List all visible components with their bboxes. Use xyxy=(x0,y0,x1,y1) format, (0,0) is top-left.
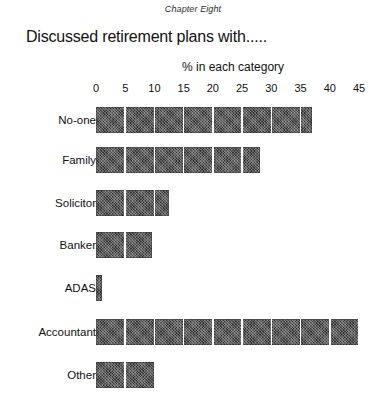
bar xyxy=(96,319,359,345)
bar-rows: No-oneFamilySolicitorBankerADASAccountan… xyxy=(0,0,386,413)
bar xyxy=(96,107,312,133)
bar-row: Solicitor xyxy=(0,190,386,216)
bar-row: ADAS xyxy=(0,275,386,301)
bar-row: No-one xyxy=(0,107,386,133)
bar-row: Banker xyxy=(0,232,386,258)
bar-chart-plot: 051015202530354045 No-oneFamilySolicitor… xyxy=(0,0,386,413)
category-label: ADAS xyxy=(65,282,96,294)
bar-row: Other xyxy=(0,362,386,388)
category-label: Family xyxy=(62,154,96,166)
category-label: Other xyxy=(67,369,96,381)
bar xyxy=(96,147,260,173)
category-label: Accountant xyxy=(38,326,96,338)
bar xyxy=(96,275,102,301)
category-label: Banker xyxy=(60,239,96,251)
category-label: No-one xyxy=(58,114,96,126)
bar xyxy=(96,362,154,388)
bar-row: Family xyxy=(0,147,386,173)
bar xyxy=(96,190,169,216)
bar-row: Accountant xyxy=(0,319,386,345)
bar xyxy=(96,232,152,258)
category-label: Solicitor xyxy=(55,197,96,209)
